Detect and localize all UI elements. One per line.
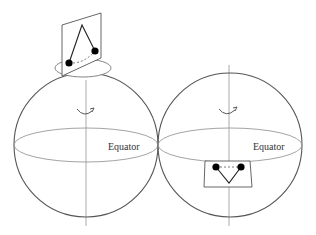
foucault-pendulum-diagram [0, 0, 316, 235]
pendulum-bob-icon [212, 163, 219, 170]
pendulum-bob-icon [91, 47, 98, 54]
left-sphere [14, 13, 158, 226]
rotation-arrow-icon [219, 107, 237, 114]
pendulum-plane [204, 161, 252, 187]
pendulum-bob-icon [237, 163, 244, 170]
pendulum-bob-icon [65, 59, 72, 66]
left-equator-label: Equator [108, 142, 140, 152]
right-equator-label: Equator [253, 142, 285, 152]
